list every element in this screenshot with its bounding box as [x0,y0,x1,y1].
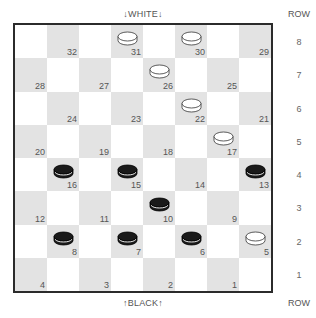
square-6: 6 [175,225,207,258]
square-number: 22 [195,114,205,124]
square-30: 30 [175,25,207,58]
black-piece-icon [149,197,170,212]
square-11: 11 [79,191,111,224]
square-7: 7 [111,225,143,258]
square-number: 28 [35,81,45,91]
white-piece-icon [181,98,202,113]
black-piece-icon [117,164,138,179]
black-piece-icon [181,231,202,246]
square-number: 27 [99,81,109,91]
black-side-label: ↑BLACK↑ [0,298,286,308]
square-number: 12 [35,214,45,224]
white-piece-icon [181,31,202,46]
square-number: 18 [163,147,173,157]
square-28: 28 [15,58,47,91]
square-13: 13 [239,158,271,191]
row-number-1: 1 [282,270,316,280]
square-20: 20 [15,125,47,158]
square-number: 21 [259,114,269,124]
square-number: 15 [131,180,141,190]
row-number-5: 5 [282,137,316,147]
square-number: 14 [195,180,205,190]
row-number-4: 4 [282,170,316,180]
square-15: 15 [111,158,143,191]
row-number-6: 6 [282,104,316,114]
white-piece-icon [117,31,138,46]
black-piece-icon [53,231,74,246]
square-4: 4 [15,258,47,291]
row-number-2: 2 [282,237,316,247]
square-31: 31 [111,25,143,58]
square-number: 31 [131,47,141,57]
square-number: 10 [163,214,173,224]
square-16: 16 [47,158,79,191]
square-number: 3 [104,280,109,290]
row-number-8: 8 [282,37,316,47]
square-number: 29 [259,47,269,57]
square-number: 30 [195,47,205,57]
square-12: 12 [15,191,47,224]
square-14: 14 [175,158,207,191]
square-number: 20 [35,147,45,157]
square-number: 8 [72,247,77,257]
square-number: 9 [232,214,237,224]
square-number: 17 [227,147,237,157]
square-24: 24 [47,92,79,125]
square-18: 18 [143,125,175,158]
square-1: 1 [207,258,239,291]
square-number: 24 [67,114,77,124]
square-21: 21 [239,92,271,125]
square-number: 1 [232,280,237,290]
black-piece-icon [245,164,266,179]
square-8: 8 [47,225,79,258]
square-number: 2 [168,280,173,290]
square-23: 23 [111,92,143,125]
square-26: 26 [143,58,175,91]
square-number: 6 [200,247,205,257]
square-number: 32 [67,47,77,57]
black-piece-icon [53,164,74,179]
square-32: 32 [47,25,79,58]
square-29: 29 [239,25,271,58]
square-27: 27 [79,58,111,91]
square-number: 19 [99,147,109,157]
square-3: 3 [79,258,111,291]
square-5: 5 [239,225,271,258]
square-number: 13 [259,180,269,190]
white-piece-icon [149,64,170,79]
square-number: 7 [136,247,141,257]
square-number: 11 [100,214,109,224]
square-17: 17 [207,125,239,158]
white-piece-icon [245,231,266,246]
square-number: 5 [264,247,269,257]
row-header-bottom: ROW [282,298,316,308]
square-number: 25 [227,81,237,91]
white-piece-icon [213,131,234,146]
checkers-board: 3231302928272625242322212019181716151413… [13,23,273,293]
square-number: 26 [163,81,173,91]
square-number: 4 [40,280,45,290]
white-side-label: ↓WHITE↓ [0,9,286,19]
row-header-top: ROW [282,9,316,19]
black-piece-icon [117,231,138,246]
square-22: 22 [175,92,207,125]
square-19: 19 [79,125,111,158]
square-9: 9 [207,191,239,224]
square-number: 16 [67,180,77,190]
row-number-3: 3 [282,203,316,213]
row-number-7: 7 [282,70,316,80]
square-2: 2 [143,258,175,291]
square-number: 23 [131,114,141,124]
square-25: 25 [207,58,239,91]
square-10: 10 [143,191,175,224]
